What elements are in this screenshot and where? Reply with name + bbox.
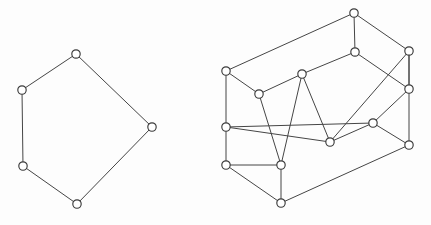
- graph-vertex: [73, 200, 81, 208]
- graph-edge: [373, 89, 409, 123]
- graph-vertex: [222, 123, 230, 131]
- graph-edge: [281, 74, 302, 165]
- graph-vertex: [298, 70, 306, 78]
- graph-vertex: [72, 50, 80, 58]
- graph-vertex: [326, 138, 334, 146]
- graph-vertex: [405, 47, 413, 55]
- graph-edge: [22, 54, 76, 90]
- graph-edge: [77, 127, 152, 204]
- right-graph-edges: [226, 13, 409, 203]
- graph-edge: [330, 51, 409, 142]
- graph-vertex: [350, 9, 358, 17]
- graph-edge: [23, 166, 77, 204]
- graph-vertex: [405, 85, 413, 93]
- graph-vertex: [222, 67, 230, 75]
- graph-edge: [226, 165, 281, 203]
- figure-canvas: Two graph drawings 5-cycle Cubic graph d…: [0, 0, 431, 225]
- graph-vertex: [255, 90, 263, 98]
- graph-edge: [330, 123, 373, 142]
- graph-edge: [373, 123, 409, 145]
- graph-edge: [302, 74, 330, 142]
- graph-edge: [226, 127, 330, 142]
- left-graph-edges: [22, 54, 152, 204]
- graph-edge: [22, 90, 23, 166]
- graph-edge: [76, 54, 152, 127]
- graph-edge: [226, 13, 354, 71]
- right-graph-vertices: [222, 9, 413, 207]
- graph-edge: [281, 145, 409, 203]
- left-graph-vertices: [18, 50, 156, 208]
- graph-vertex: [369, 119, 377, 127]
- graph-vertex: [222, 161, 230, 169]
- graph-edge: [302, 52, 355, 74]
- graph-edge: [226, 123, 373, 127]
- graph-edge: [259, 94, 281, 165]
- graph-vertex: [277, 199, 285, 207]
- graph-edge: [354, 13, 409, 51]
- graph-edge: [354, 13, 355, 52]
- edges-layer: [22, 13, 409, 204]
- graph-vertex: [148, 123, 156, 131]
- graph-vertex: [351, 48, 359, 56]
- graph-vertex: [18, 86, 26, 94]
- graph-vertex: [277, 161, 285, 169]
- graph-edge: [355, 52, 409, 89]
- graph-edge: [226, 71, 259, 94]
- graph-edge: [259, 74, 302, 94]
- graph-vertex: [405, 141, 413, 149]
- vertices-layer: [18, 9, 413, 208]
- graph-vertex: [19, 162, 27, 170]
- graph-diagram-svg: [0, 0, 431, 225]
